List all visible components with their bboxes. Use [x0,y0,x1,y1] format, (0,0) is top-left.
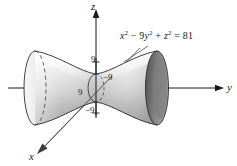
figure-canvas [0,0,237,166]
x-axis-label: x [29,151,34,162]
surface-equation-label: x2 − 9y2 + z2 = 81 [120,31,193,41]
equation-operator-plus: + [153,30,164,41]
right-mouth-inner-lip [153,57,168,119]
tick-label-y-negative-9: −9 [103,73,113,82]
tick-label-z-negative-9: −9 [85,106,95,115]
equation-operator-minus: − [128,30,139,41]
tick-label-x-positive-9: 9 [78,88,83,97]
z-axis-label: z [91,1,95,12]
tick-label-z-positive-9: 9 [91,55,96,64]
y-axis-label: y [227,82,232,93]
hyperboloid-figure: x2 − 9y2 + z2 = 81 z y x 9 −9 9 −9 [0,0,237,166]
y-axis-arrowhead [215,85,224,92]
equation-rhs-81: 81 [183,30,193,41]
equation-equals-sign: = [171,30,182,41]
